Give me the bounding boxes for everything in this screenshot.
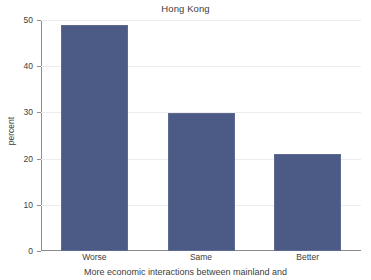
bar-better	[274, 154, 341, 251]
x-tick-label: Same	[161, 253, 241, 262]
bar-worse	[61, 25, 128, 251]
x-tick-label: Better	[268, 253, 348, 262]
x-tick-label: Worse	[54, 253, 134, 262]
gridline	[41, 20, 361, 21]
y-tick-label: 40	[0, 62, 33, 71]
bar-chart: Hong Kong percent 01020304050 WorseSameB…	[0, 0, 371, 280]
y-tick-mark	[37, 159, 41, 160]
y-tick-label: 0	[0, 247, 33, 256]
y-tick-label: 30	[0, 108, 33, 117]
bar-same	[168, 113, 235, 251]
y-tick-mark	[37, 251, 41, 252]
y-tick-mark	[37, 20, 41, 21]
y-tick-label: 50	[0, 16, 33, 25]
y-tick-mark	[37, 205, 41, 206]
x-axis-title: More economic interactions between mainl…	[0, 267, 371, 277]
y-tick-label: 20	[0, 155, 33, 164]
y-tick-mark	[37, 66, 41, 67]
y-tick-label: 10	[0, 201, 33, 210]
chart-title: Hong Kong	[0, 3, 371, 14]
plot-area	[41, 20, 361, 251]
y-tick-mark	[37, 112, 41, 113]
